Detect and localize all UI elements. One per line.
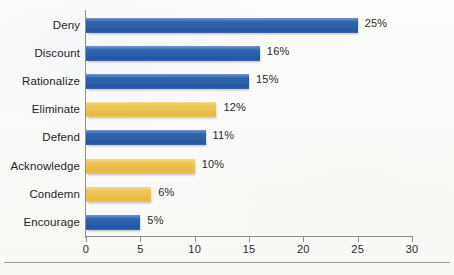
bar-row: 16% <box>86 46 412 61</box>
bar-discount[interactable] <box>86 46 260 61</box>
bar-value-label: 6% <box>158 186 174 198</box>
bar-condemn[interactable] <box>86 187 151 202</box>
x-axis-tick-label: 20 <box>283 243 323 255</box>
category-label-discount: Discount <box>0 47 80 59</box>
x-axis-tick <box>358 237 359 242</box>
bar-row: 10% <box>86 159 412 174</box>
bar-row: 12% <box>86 102 412 117</box>
bar-row: 25% <box>86 18 412 33</box>
bar-eliminate[interactable] <box>86 102 216 117</box>
category-label-rationalize: Rationalize <box>0 75 80 87</box>
bottom-divider-rule <box>4 262 450 263</box>
x-axis-tick-label: 25 <box>338 243 378 255</box>
bar-acknowledge[interactable] <box>86 159 195 174</box>
bar-value-label: 5% <box>147 214 163 226</box>
category-label-condemn: Condemn <box>0 188 80 200</box>
bar-row: 6% <box>86 187 412 202</box>
y-axis-line <box>85 10 86 238</box>
category-label-eliminate: Eliminate <box>0 103 80 115</box>
x-axis-tick-label: 15 <box>229 243 269 255</box>
bar-deny[interactable] <box>86 18 358 33</box>
category-label-deny: Deny <box>0 19 80 31</box>
bar-value-label: 12% <box>223 101 246 113</box>
x-axis-tick-label: 5 <box>120 243 160 255</box>
bar-value-label: 25% <box>365 17 388 29</box>
category-label-acknowledge: Acknowledge <box>0 160 80 172</box>
x-axis-tick-label: 30 <box>392 243 432 255</box>
x-axis-tick <box>86 237 87 242</box>
bar-row: 5% <box>86 215 412 230</box>
category-label-defend: Defend <box>0 131 80 143</box>
bar-rationalize[interactable] <box>86 74 249 89</box>
x-axis-tick <box>412 237 413 242</box>
bar-encourage[interactable] <box>86 215 140 230</box>
x-axis-tick <box>140 237 141 242</box>
bar-value-label: 16% <box>267 45 290 57</box>
bar-defend[interactable] <box>86 130 206 145</box>
bar-value-label: 10% <box>202 158 225 170</box>
category-label-encourage: Encourage <box>0 216 80 228</box>
x-axis-tick-label: 10 <box>175 243 215 255</box>
bar-row: 15% <box>86 74 412 89</box>
x-axis-tick <box>249 237 250 242</box>
x-axis-tick <box>303 237 304 242</box>
bar-row: 11% <box>86 130 412 145</box>
x-axis-tick-label: 0 <box>66 243 106 255</box>
bar-value-label: 15% <box>256 73 279 85</box>
x-axis-tick <box>195 237 196 242</box>
horizontal-bar-chart: 051015202530 25%16%15%12%11%10%6%5% Deny… <box>0 0 454 275</box>
bar-value-label: 11% <box>213 129 235 141</box>
